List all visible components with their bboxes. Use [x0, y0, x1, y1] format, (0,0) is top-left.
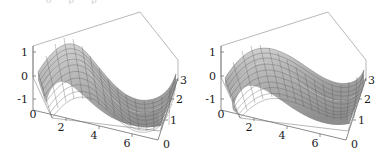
x-tick-label: 2: [246, 121, 253, 134]
figure-canvas: o p p: [0, 0, 376, 164]
surface-mesh: [38, 38, 176, 132]
y-tick-label: 2: [176, 93, 183, 106]
y-tick-label: 3: [180, 74, 187, 87]
z-tick-label: 0: [209, 70, 216, 83]
y-tick-label: 0: [163, 138, 170, 151]
x-tick-label: 4: [91, 129, 98, 142]
right-surface-plot: 1 0 -1 0 2 4 6 0: [188, 0, 376, 164]
y-tick-label: 2: [364, 93, 371, 106]
x-tick-label: 2: [58, 121, 65, 134]
x-tick-label: 0: [30, 108, 37, 121]
z-tick-label: -1: [17, 93, 28, 106]
y-tick-label: 1: [170, 114, 177, 127]
z-tick-label: 0: [21, 70, 28, 83]
x-tick-label: 6: [312, 137, 319, 150]
surface-mesh: [225, 45, 364, 125]
z-tick-label: 1: [209, 46, 216, 59]
y-tick-label: 0: [351, 138, 358, 151]
y-tick-label: 1: [358, 114, 365, 127]
x-tick-label: 0: [218, 108, 225, 121]
x-tick-label: 6: [124, 137, 131, 150]
x-tick-label: 4: [279, 129, 286, 142]
left-surface-plot: 1 0 -1 0 2 4 6: [0, 0, 188, 164]
z-tick-label: 1: [21, 46, 28, 59]
z-tick-label: -1: [205, 93, 216, 106]
y-tick-label: 3: [368, 74, 375, 87]
